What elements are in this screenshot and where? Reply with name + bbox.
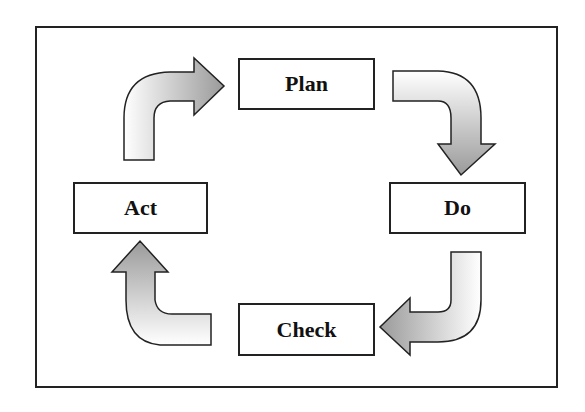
node-plan: Plan [238, 58, 375, 110]
arrow-act-to-plan-icon [124, 58, 224, 160]
node-plan-label: Plan [285, 71, 328, 97]
node-do: Do [389, 182, 526, 234]
node-do-label: Do [444, 195, 471, 221]
arrow-do-to-check-icon [380, 252, 481, 355]
node-act: Act [73, 182, 208, 234]
node-check: Check [238, 303, 375, 356]
arrow-check-to-act-icon [112, 241, 211, 345]
node-act-label: Act [124, 195, 157, 221]
arrow-plan-to-do-icon [393, 71, 495, 175]
node-check-label: Check [277, 317, 337, 343]
